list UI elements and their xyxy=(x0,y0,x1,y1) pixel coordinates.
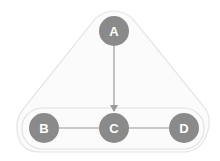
node-d[interactable]: D xyxy=(169,113,199,143)
node-b[interactable]: B xyxy=(29,113,59,143)
node-c-label: C xyxy=(109,121,119,136)
node-a[interactable]: A xyxy=(99,16,129,46)
graph-diagram: A B C D xyxy=(0,0,220,161)
node-c[interactable]: C xyxy=(99,113,129,143)
node-d-label: D xyxy=(179,121,188,136)
node-b-label: B xyxy=(39,121,48,136)
node-a-label: A xyxy=(109,24,119,39)
